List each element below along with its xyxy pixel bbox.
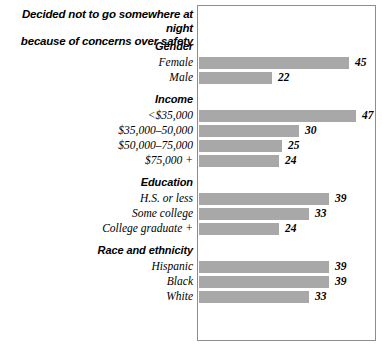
bar-value-label: 30 bbox=[305, 124, 317, 137]
bar-row: Hispanic39 bbox=[0, 260, 382, 275]
bar-row: Some college33 bbox=[0, 207, 382, 222]
bar bbox=[199, 291, 309, 303]
bar-category-label: College graduate + bbox=[0, 222, 193, 235]
bar-row: H.S. or less39 bbox=[0, 192, 382, 207]
bar bbox=[199, 193, 329, 205]
bar-row: <$35,00047 bbox=[0, 109, 382, 124]
bar-row: Male22 bbox=[0, 71, 382, 86]
bar-value-label: 39 bbox=[335, 275, 347, 288]
bar-value-label: 39 bbox=[335, 192, 347, 205]
bar bbox=[199, 208, 309, 220]
bar-category-label: Hispanic bbox=[0, 260, 193, 273]
bar-category-label: White bbox=[0, 290, 193, 303]
bar-row: Black39 bbox=[0, 275, 382, 290]
bar-category-label: $50,000–75,000 bbox=[0, 139, 193, 152]
bar-row: College graduate +24 bbox=[0, 222, 382, 237]
bar-value-label: 33 bbox=[315, 207, 327, 220]
bar-value-label: 24 bbox=[285, 154, 297, 167]
group-header-education: Education bbox=[0, 176, 382, 191]
bar-row: White33 bbox=[0, 290, 382, 305]
bar-row: $50,000–75,00025 bbox=[0, 139, 382, 154]
bar-value-label: 45 bbox=[355, 56, 367, 69]
bar-category-label: Male bbox=[0, 71, 193, 84]
bar bbox=[199, 110, 356, 122]
bar-row: $75,000 +24 bbox=[0, 154, 382, 169]
bar-value-label: 33 bbox=[315, 290, 327, 303]
bar-category-label: $75,000 + bbox=[0, 154, 193, 167]
bar bbox=[199, 140, 282, 152]
bar-category-label: H.S. or less bbox=[0, 192, 193, 205]
bar-value-label: 25 bbox=[288, 139, 300, 152]
bar-value-label: 47 bbox=[362, 109, 374, 122]
bar bbox=[199, 261, 329, 273]
group-header-gender: Gender bbox=[0, 40, 382, 55]
bar bbox=[199, 223, 279, 235]
group-header-label: Race and ethnicity bbox=[0, 244, 193, 257]
bar bbox=[199, 57, 349, 69]
bar bbox=[199, 155, 279, 167]
bar bbox=[199, 72, 272, 84]
bar-value-label: 24 bbox=[285, 222, 297, 235]
bar-category-label: Black bbox=[0, 275, 193, 288]
bar-value-label: 22 bbox=[278, 71, 290, 84]
bar bbox=[199, 125, 299, 137]
group-header-income: Income bbox=[0, 93, 382, 108]
group-header-label: Income bbox=[0, 93, 193, 106]
bar-category-label: $35,000–50,000 bbox=[0, 124, 193, 137]
bar-row: Female45 bbox=[0, 56, 382, 71]
bar-category-label: <$35,000 bbox=[0, 109, 193, 122]
group-header-race-and-ethnicity: Race and ethnicity bbox=[0, 244, 382, 259]
bar-category-label: Female bbox=[0, 56, 193, 69]
bar bbox=[199, 276, 329, 288]
group-header-label: Education bbox=[0, 176, 193, 189]
group-header-label: Gender bbox=[0, 40, 193, 53]
bar-row: $35,000–50,00030 bbox=[0, 124, 382, 139]
bar-category-label: Some college bbox=[0, 207, 193, 220]
bar-value-label: 39 bbox=[335, 260, 347, 273]
chart-rows: GenderFemale45Male22Income<$35,00047$35,… bbox=[0, 0, 382, 349]
